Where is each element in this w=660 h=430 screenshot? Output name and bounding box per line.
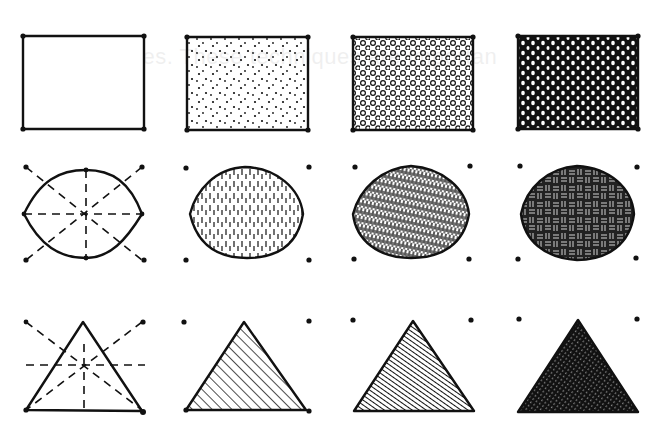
- triangle-hatch: [186, 322, 306, 410]
- triangle-dense-hatch: [354, 321, 474, 411]
- rect-stipple: [187, 37, 308, 130]
- shading-diagram: [0, 0, 660, 430]
- rect-outline: [23, 36, 144, 129]
- oval-dashes: [190, 167, 303, 258]
- triangle-crosshatch: [518, 320, 638, 412]
- rect-circles: [353, 37, 473, 130]
- rect-reverse-circles: [518, 36, 638, 129]
- oval-basketweave: [521, 166, 634, 260]
- oval-dense-dashes: [353, 166, 469, 258]
